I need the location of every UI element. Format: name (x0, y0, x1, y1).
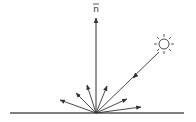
sun-ray (157, 37, 159, 39)
incident-ray (96, 52, 159, 113)
diffuse-reflection-diagram: n (0, 0, 196, 122)
sun-disc (159, 39, 169, 49)
normal-label: n (93, 4, 99, 14)
sun-ray (169, 49, 171, 51)
reflected-ray (60, 100, 96, 113)
sun-ray (169, 37, 171, 39)
sun-ray (157, 49, 159, 51)
incident-ray-line (96, 52, 159, 113)
sun-icon (154, 34, 174, 54)
